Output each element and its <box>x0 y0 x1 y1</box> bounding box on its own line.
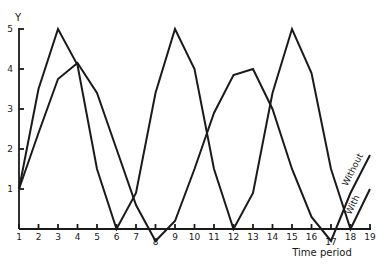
x-tick-label: 13 <box>247 232 258 242</box>
x-tick-label: 10 <box>189 232 201 242</box>
y-axis-label: Y <box>14 12 22 23</box>
y-tick-label: 4 <box>7 64 13 74</box>
y-tick-label: 2 <box>7 144 13 154</box>
x-tick-label: 6 <box>114 232 120 242</box>
y-tick-label: 5 <box>7 24 13 34</box>
x-tick-label: 5 <box>94 232 100 242</box>
x-tick-label: 19 <box>364 232 376 242</box>
y-tick-label: 1 <box>7 184 13 194</box>
x-tick-label: 15 <box>286 232 297 242</box>
x-tick-label: 16 <box>306 232 318 242</box>
x-tick-label: 4 <box>75 232 81 242</box>
series-line-without <box>19 63 370 241</box>
x-axis-label: Time period <box>291 247 352 258</box>
x-tick-label: 7 <box>133 232 139 242</box>
x-tick-label: 9 <box>172 232 178 242</box>
axes: 12345Y12345678910111213141516171819Time … <box>7 12 376 258</box>
x-tick-label: 11 <box>208 232 219 242</box>
x-tick-label: 14 <box>267 232 279 242</box>
x-tick-label: 2 <box>36 232 42 242</box>
series-lines <box>19 29 370 241</box>
series-line-with <box>19 29 370 229</box>
x-tick-label: 12 <box>228 232 239 242</box>
line-chart: 12345Y12345678910111213141516171819Time … <box>0 0 385 272</box>
x-tick-label: 1 <box>16 232 22 242</box>
x-tick-label: 3 <box>55 232 61 242</box>
y-tick-label: 3 <box>7 104 13 114</box>
x-tick-label: 18 <box>345 232 357 242</box>
